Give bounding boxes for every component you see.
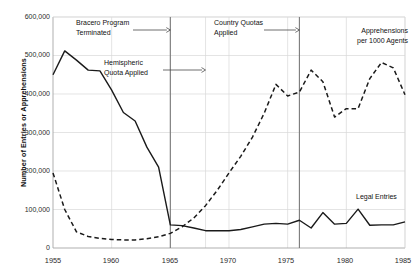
annotation-apprehensions-per-1000-agents: Apprehensions per 1000 Agents	[318, 26, 408, 45]
y-axis-tick-labels: 600,000 500,000 400,000 300,000 200,000 …	[0, 0, 50, 277]
annotation-country-quotas-line2: Applied	[214, 28, 263, 38]
x-tick-1955: 1955	[33, 256, 73, 265]
chart-container: Number of Entries or Apprehensions 600,0…	[0, 0, 419, 277]
y-tick-400000: 400,000	[4, 90, 50, 98]
arrow-hemispheric-to-1968	[163, 68, 206, 73]
annotation-apprehensions-line2: per 1000 Agents	[318, 36, 408, 46]
annotation-bracero-line2: Terminated	[76, 28, 129, 38]
arrow-bracero-to-1965	[133, 28, 170, 33]
y-tick-600000: 600,000	[4, 13, 50, 21]
x-tick-1980: 1980	[325, 256, 365, 265]
x-tick-1975: 1975	[266, 256, 306, 265]
x-tick-1965: 1965	[150, 256, 190, 265]
y-tick-200000: 200,000	[4, 167, 50, 175]
y-tick-500000: 500,000	[4, 51, 50, 59]
annotation-bracero-program-terminated: Bracero Program Terminated	[76, 18, 129, 37]
annotation-apprehensions-line1: Apprehensions	[318, 26, 408, 36]
y-tick-0: 0	[4, 244, 50, 252]
annotation-hemispheric-line1: Hemispheric	[104, 58, 148, 68]
y-tick-300000: 300,000	[4, 129, 50, 137]
annotation-country-quotas-line1: Country Quotas	[214, 18, 263, 28]
annotation-bracero-line1: Bracero Program	[76, 18, 129, 28]
arrow-country-quotas-to-1976	[264, 28, 299, 33]
x-tick-1960: 1960	[91, 256, 131, 265]
x-tick-1970: 1970	[208, 256, 248, 265]
annotation-hemispheric-line2: Quota Applied	[104, 68, 148, 78]
annotation-legal-entries: Legal Entries	[356, 192, 397, 202]
annotation-country-quotas-applied: Country Quotas Applied	[214, 18, 263, 37]
y-tick-100000: 100,000	[4, 206, 50, 214]
x-tick-1985: 1985	[383, 256, 419, 265]
annotation-legal-entries-line1: Legal Entries	[356, 192, 397, 202]
annotation-hemispheric-quota-applied: Hemispheric Quota Applied	[104, 58, 148, 77]
